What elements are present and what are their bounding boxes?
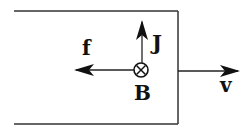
- conductor-outline: [14, 11, 178, 124]
- magnetic-field-into-page-icon: [134, 63, 148, 77]
- force-label: f: [82, 36, 92, 60]
- diagram-canvas: f J B v: [0, 0, 251, 137]
- current-density-label: J: [150, 30, 162, 55]
- magnetic-field-label: B: [134, 81, 151, 105]
- velocity-label: v: [219, 73, 233, 97]
